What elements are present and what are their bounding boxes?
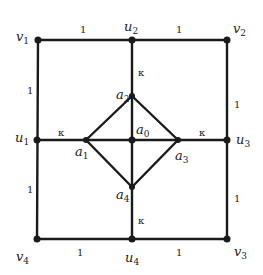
weight-u3-v3: 1: [234, 194, 240, 204]
label-u3: u3: [236, 133, 250, 149]
node-u3: [224, 137, 231, 144]
node-a1: [83, 137, 89, 143]
label-a0: a0: [136, 123, 150, 139]
weight-a4-u4: κ: [138, 216, 144, 226]
label-a3: a3: [175, 149, 189, 165]
label-u1: u1: [15, 131, 29, 147]
weight-u1-a1: κ: [58, 128, 64, 138]
label-v3: v3: [234, 245, 247, 261]
label-u4: u4: [125, 251, 139, 267]
label-u2: u2: [124, 20, 138, 36]
weight-u2-v2: 1: [176, 25, 182, 35]
graph-diagram: [0, 0, 263, 275]
node-v1: [35, 37, 42, 44]
weight-u4-v3: 1: [176, 248, 182, 258]
label-a1: a1: [75, 145, 89, 161]
label-v4: v4: [16, 250, 29, 266]
label-v1: v1: [16, 30, 29, 46]
weight-u1-v4: 1: [27, 185, 33, 195]
node-a4: [129, 184, 135, 190]
node-u2: [129, 37, 136, 44]
node-a3: [175, 137, 181, 143]
node-a0: [129, 137, 136, 144]
node-v3: [224, 236, 231, 243]
node-v2: [224, 37, 231, 44]
label-a4: a4: [116, 188, 130, 204]
node-v4: [34, 236, 41, 243]
weight-v1-u1: 1: [27, 86, 33, 96]
node-a2: [129, 93, 135, 99]
edge-a4-a1: [86, 140, 132, 187]
weight-a3-u3: κ: [199, 128, 205, 138]
node-u4: [129, 236, 136, 243]
weight-u2-a2: κ: [138, 68, 144, 78]
node-u1: [34, 137, 41, 144]
label-a2: a2: [116, 88, 130, 104]
label-v2: v2: [233, 22, 246, 38]
weight-v4-u4: 1: [77, 248, 83, 258]
edge-a3-a4: [132, 140, 178, 187]
weight-v2-u3: 1: [234, 100, 240, 110]
weight-v1-u2: 1: [80, 25, 86, 35]
